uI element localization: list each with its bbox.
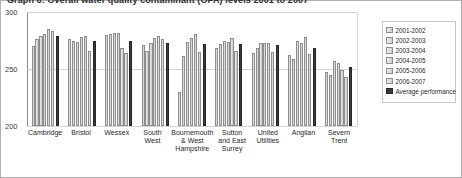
bar-average	[276, 45, 279, 126]
bar	[252, 53, 255, 126]
bar	[288, 55, 291, 126]
bar-average	[93, 41, 96, 127]
y-tick-label-300: 300	[5, 8, 25, 17]
bar-group	[137, 12, 174, 126]
bar-group	[247, 12, 284, 126]
legend-label: Average performance	[396, 88, 456, 95]
bar-average	[129, 41, 132, 127]
bar	[182, 56, 185, 126]
bar	[186, 42, 189, 126]
bar-average	[203, 44, 206, 126]
legend-item: 2003-2004	[386, 45, 453, 55]
legend-swatch-icon	[386, 78, 393, 85]
legend-label: 2005-2006	[396, 67, 426, 74]
bar-average	[166, 43, 169, 126]
bar	[259, 43, 262, 126]
legend-label: 2003-2004	[396, 47, 426, 54]
bar	[296, 41, 299, 127]
bar-average	[313, 48, 316, 126]
legend-label: 2002-2003	[396, 37, 426, 44]
legend-item: 2006-2007	[386, 76, 453, 86]
bar	[271, 52, 274, 126]
legend-label: 2006-2007	[396, 78, 426, 85]
gridline-200	[27, 126, 357, 127]
bar	[267, 43, 270, 126]
bar	[68, 39, 71, 126]
bar	[113, 33, 116, 126]
chart-frame: Graph 6: Overall water quality contamina…	[0, 0, 462, 178]
bar	[190, 38, 193, 126]
bar	[227, 42, 230, 126]
bar	[329, 75, 332, 126]
bar	[161, 39, 164, 126]
bar	[72, 41, 75, 127]
bar	[215, 48, 218, 126]
legend-label: 2004-2005	[396, 57, 426, 64]
bar	[88, 51, 91, 126]
legend-swatch-icon	[386, 68, 393, 75]
x-axis-label: Bournemouth & West Hampshire	[170, 129, 214, 169]
legend-swatch-icon	[386, 88, 393, 95]
legend-item: 2002-2003	[386, 35, 453, 45]
bar	[325, 72, 328, 126]
bar	[39, 36, 42, 126]
x-axis-labels: CambridgeBristolWessexSouth WestBournemo…	[27, 129, 357, 169]
legend-item: Average performance	[386, 86, 453, 96]
bar	[35, 39, 38, 126]
legend-label: 2001-2002	[396, 27, 426, 34]
legend: 2001-20022002-20032003-20042004-20052005…	[382, 21, 456, 103]
bar	[300, 43, 303, 126]
bar	[47, 29, 50, 126]
bar	[223, 41, 226, 127]
bar	[340, 70, 343, 126]
x-axis-label: South West	[135, 129, 171, 169]
bar	[84, 36, 87, 126]
legend-swatch-icon	[386, 57, 393, 64]
bar	[76, 42, 79, 126]
bar	[308, 54, 311, 126]
legend-item: 2004-2005	[386, 56, 453, 66]
legend-item: 2001-2002	[386, 25, 453, 35]
bar	[256, 48, 259, 126]
bar	[219, 44, 222, 126]
bar-group	[27, 12, 64, 126]
x-axis-label: Cambridge	[27, 129, 63, 169]
x-axis-label: Sutton and East Surrey	[214, 129, 250, 169]
bar	[51, 31, 54, 126]
bar-groups	[27, 12, 357, 126]
x-axis-label: United Utilities	[250, 129, 286, 169]
bar-average	[56, 36, 59, 126]
bar	[194, 34, 197, 126]
bar	[304, 37, 307, 126]
bar-average	[349, 67, 352, 126]
chart-title: Graph 6: Overall water quality contamina…	[7, 0, 387, 6]
y-tick-label-200: 200	[5, 122, 25, 131]
bar	[230, 38, 233, 126]
x-axis-label: Wessex	[99, 129, 135, 169]
bar	[337, 63, 340, 126]
legend-swatch-icon	[386, 37, 393, 44]
bar	[157, 36, 160, 126]
bar-group	[320, 12, 357, 126]
bar	[292, 59, 295, 126]
bar	[333, 61, 336, 126]
bar	[344, 77, 347, 126]
x-axis-label: Bristol	[63, 129, 99, 169]
x-axis-label: Anglian	[286, 129, 322, 169]
bar	[120, 48, 123, 126]
bar-average	[239, 44, 242, 126]
bar-group	[174, 12, 211, 126]
bar-group	[284, 12, 321, 126]
bar	[32, 46, 35, 126]
bar	[263, 43, 266, 126]
bar	[149, 43, 152, 126]
bar	[124, 53, 127, 126]
y-tick-label-250: 250	[5, 65, 25, 74]
x-axis-label: Severn Trent	[321, 129, 357, 169]
bar	[178, 92, 181, 126]
bar	[234, 51, 237, 126]
bar	[43, 34, 46, 126]
legend-item: 2005-2006	[386, 66, 453, 76]
legend-swatch-icon	[386, 47, 393, 54]
bar	[109, 34, 112, 126]
